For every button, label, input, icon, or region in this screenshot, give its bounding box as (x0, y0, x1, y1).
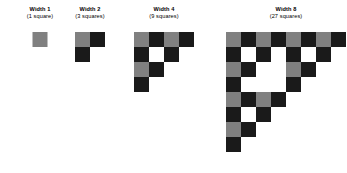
stage-caption: Width 1(1 square) (27, 6, 54, 21)
grid-cell-empty (271, 122, 286, 137)
grid-cell-black (241, 62, 256, 77)
grid-cell-white (256, 62, 271, 77)
grid-cells (226, 32, 346, 152)
grid-cell-empty (316, 137, 331, 152)
stage-count-label: (27 squares) (270, 13, 303, 20)
grid-cell-black (301, 32, 316, 47)
grid-cell-empty (331, 122, 346, 137)
stage-count-label: (1 square) (27, 13, 54, 20)
grid-cell-empty (149, 77, 164, 92)
stage-width-label: Width 8 (276, 6, 297, 12)
stage-width-8: Width 8(27 squares) (226, 6, 346, 173)
grid-cell-empty (316, 92, 331, 107)
grid-cell-black (241, 32, 256, 47)
grid-cell-gray (226, 92, 241, 107)
grid-cell-empty (331, 107, 346, 122)
grid-cell-black (149, 62, 164, 77)
grid-cell-gray (226, 32, 241, 47)
grid-cell-empty (316, 77, 331, 92)
grid-cells (33, 32, 48, 47)
grid-cell-empty (301, 107, 316, 122)
grid-cell-empty (164, 62, 179, 77)
grid-cell-black (226, 107, 241, 122)
stage-grid (33, 32, 48, 47)
grid-cell-empty (316, 62, 331, 77)
stage-grid (75, 32, 105, 62)
grid-cell-black (301, 62, 316, 77)
stage-count-label: (9 squares) (149, 13, 178, 20)
grid-cell-black (286, 47, 301, 62)
grid-cell-empty (256, 137, 271, 152)
grid-cell-black (134, 77, 149, 92)
grid-cell-empty (256, 122, 271, 137)
stage-grid (134, 32, 194, 92)
grid-cell-black (241, 122, 256, 137)
grid-cell-black (179, 32, 194, 47)
grid-cell-black (256, 107, 271, 122)
stage-width-2: Width 2(3 squares) (62, 6, 118, 173)
stage-grid (226, 32, 346, 152)
grid-cell-empty (286, 122, 301, 137)
grid-cell-empty (286, 137, 301, 152)
stage-caption: Width 2(3 squares) (75, 6, 104, 21)
grid-cell-white (271, 77, 286, 92)
grid-cell-empty (90, 47, 105, 62)
grid-cell-black (149, 32, 164, 47)
stage-width-label: Width 1 (30, 6, 51, 12)
grid-cell-black (134, 47, 149, 62)
grid-cell-gray (33, 32, 48, 47)
grid-cell-empty (179, 77, 194, 92)
grid-cell-empty (241, 137, 256, 152)
grid-cell-empty (331, 47, 346, 62)
grid-cell-white (271, 62, 286, 77)
grid-cell-gray (134, 32, 149, 47)
grid-cell-empty (331, 62, 346, 77)
grid-cells (134, 32, 194, 92)
grid-cell-black (316, 47, 331, 62)
grid-cell-gray (316, 32, 331, 47)
grid-cell-empty (301, 77, 316, 92)
grid-cell-white (149, 47, 164, 62)
grid-cell-empty (271, 137, 286, 152)
grid-cell-empty (316, 107, 331, 122)
grid-cell-empty (331, 92, 346, 107)
grid-cell-black (271, 92, 286, 107)
grid-cell-black (226, 77, 241, 92)
grid-cell-white (271, 47, 286, 62)
grid-cell-white (241, 107, 256, 122)
grid-cell-empty (179, 47, 194, 62)
stage-width-4: Width 4(9 squares) (134, 6, 194, 173)
grid-cell-empty (271, 107, 286, 122)
grid-cell-white (301, 47, 316, 62)
grid-cell-empty (286, 107, 301, 122)
stage-width-1: Width 1(1 square) (12, 6, 68, 173)
grid-cell-gray (134, 62, 149, 77)
grid-cell-gray (164, 32, 179, 47)
grid-cells (75, 32, 105, 62)
stage-caption: Width 4(9 squares) (149, 6, 178, 21)
stage-count-label: (3 squares) (75, 13, 104, 20)
grid-cell-black (241, 92, 256, 107)
grid-cell-black (164, 47, 179, 62)
grid-cell-empty (316, 122, 331, 137)
grid-cell-black (256, 47, 271, 62)
grid-cell-gray (226, 122, 241, 137)
grid-cell-empty (331, 77, 346, 92)
grid-cell-empty (164, 77, 179, 92)
grid-cell-white (241, 47, 256, 62)
grid-cell-white (256, 77, 271, 92)
grid-cell-empty (331, 137, 346, 152)
grid-cell-black (226, 137, 241, 152)
grid-cell-gray (75, 32, 90, 47)
grid-cell-empty (301, 92, 316, 107)
grid-cell-black (286, 77, 301, 92)
grid-cell-black (331, 32, 346, 47)
grid-cell-empty (301, 122, 316, 137)
grid-cell-black (226, 47, 241, 62)
sierpinski-figure: Width 1(1 square)Width 2(3 squares)Width… (0, 0, 347, 173)
stage-width-label: Width 4 (154, 6, 175, 12)
grid-cell-gray (286, 62, 301, 77)
grid-cell-black (90, 32, 105, 47)
grid-cell-gray (256, 32, 271, 47)
grid-cell-gray (286, 32, 301, 47)
